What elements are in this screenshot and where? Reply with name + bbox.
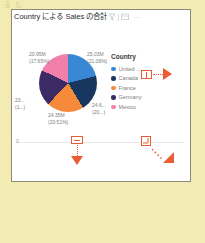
divider <box>118 14 119 21</box>
handle-box-corner[interactable] <box>141 136 151 146</box>
legend-swatch-icon <box>111 86 116 91</box>
legend-swatch-icon <box>111 105 116 110</box>
arrow-right-icon <box>163 68 172 80</box>
legend-item-label: Mexico <box>119 104 137 110</box>
pie-data-label: 20.95M (17.65%) <box>29 51 49 64</box>
pie-data-label: 23... (1...) <box>15 97 25 110</box>
corner-grip-icon <box>143 138 149 144</box>
arrow-down-icon <box>71 156 83 165</box>
pie-data-label: 25.03M (21.08%) <box>87 51 107 64</box>
filter-icon[interactable] <box>108 13 116 21</box>
legend-item-label: Germany <box>119 94 142 100</box>
pie-data-label-percent: (1...) <box>15 104 25 111</box>
pie-data-label-percent: (20.51%) <box>48 119 68 126</box>
more-options-icon[interactable]: ··· <box>133 14 142 21</box>
legend-swatch-icon <box>111 95 116 100</box>
vertical-grip-icon <box>145 72 148 78</box>
pie-data-label-value: 24.6... <box>92 102 106 109</box>
pie-data-label-percent: (20...) <box>92 109 106 116</box>
legend-swatch-icon <box>111 76 116 81</box>
legend-item-france[interactable]: France <box>111 83 169 93</box>
legend-title: Country <box>111 53 169 61</box>
legend-item-label: Canada <box>119 75 139 81</box>
pie-data-label-percent: (21.08%) <box>87 58 107 65</box>
handle-box-right[interactable] <box>141 70 152 79</box>
legend-swatch-icon <box>111 67 116 72</box>
pie-data-label-percent: (17.65%) <box>29 58 49 65</box>
legend-item-label: France <box>119 85 136 91</box>
dotted-connector-right <box>153 74 163 75</box>
pie-data-label: 24.6... (20...) <box>92 102 106 115</box>
pie-data-label-value: 23... <box>15 97 25 104</box>
dotted-connector-bottom <box>77 145 78 156</box>
handle-box-bottom[interactable] <box>71 136 83 144</box>
visual-header: Country による Sales の合計 ··· <box>12 10 190 24</box>
pie-data-label: 24.35M (20.51%) <box>48 112 68 125</box>
arrow-diagonal-icon <box>163 152 174 163</box>
horizontal-grip-icon <box>74 139 80 142</box>
focus-mode-icon[interactable] <box>121 13 129 21</box>
visual-header-icons: ··· <box>108 13 142 21</box>
legend-item-united[interactable]: United ... <box>111 64 169 74</box>
baseline-divider <box>16 142 184 143</box>
legend-item-germany[interactable]: Germany <box>111 93 169 103</box>
legend: Country United ... Canada France Germany… <box>111 53 169 112</box>
page-title: Country による Sales の合計 <box>14 12 107 22</box>
legend-item-label: United ... <box>119 66 141 72</box>
legend-item-mexico[interactable]: Mexico <box>111 102 169 112</box>
axis-tick-label: 0 <box>16 138 19 144</box>
